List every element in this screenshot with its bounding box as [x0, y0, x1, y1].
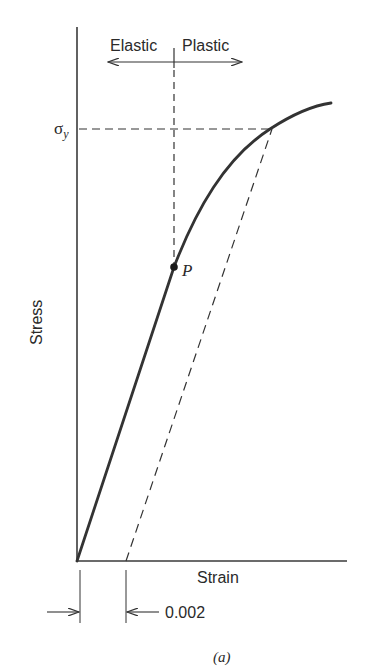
yield-strength-label: σy — [54, 119, 69, 141]
sigma-symbol: σ — [54, 119, 63, 138]
stress-strain-diagram: Elastic Plastic σy P Stress Strain 0.002… — [0, 0, 377, 667]
proportional-limit-point — [170, 263, 178, 271]
x-axis-label: Strain — [197, 569, 239, 586]
sigma-subscript: y — [62, 127, 69, 141]
figure-caption: (a) — [213, 649, 231, 666]
offset-value-label: 0.002 — [165, 604, 205, 621]
elastic-label: Elastic — [110, 37, 157, 54]
y-axis-label: Stress — [28, 300, 45, 345]
point-p-label: P — [181, 261, 192, 280]
plastic-label: Plastic — [182, 37, 229, 54]
